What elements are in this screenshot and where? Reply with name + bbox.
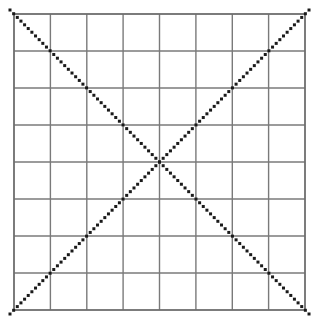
diagonal-dot — [122, 123, 125, 126]
figure-container — [0, 0, 311, 318]
diagonal-dot — [74, 75, 77, 78]
diagonal-dot — [132, 135, 135, 138]
diagonal-dot — [85, 86, 88, 89]
diagonal-dot — [165, 153, 168, 156]
diagonal-dot — [100, 101, 103, 104]
diagonal-dot — [27, 294, 30, 297]
diagonal-dot — [27, 27, 30, 30]
diagonal-dot — [125, 194, 128, 197]
diagonal-dot — [147, 149, 150, 152]
diagonal-dot — [300, 16, 303, 19]
diagonal-dot — [242, 246, 245, 249]
diagonal-dot — [169, 149, 172, 152]
diagonal-dot — [122, 198, 125, 201]
diagonal-dot — [271, 46, 274, 49]
diagonal-dot — [282, 287, 285, 290]
diagonal-dot — [275, 279, 278, 282]
diagonal-dot — [70, 249, 73, 252]
diagonal-dot — [176, 179, 179, 182]
diagonal-dot — [45, 275, 48, 278]
diagonal-dot — [103, 105, 106, 108]
diagonal-dot — [238, 242, 241, 245]
diagonal-dot — [198, 201, 201, 204]
diagonal-dot — [34, 34, 37, 37]
diagonal-dot — [176, 142, 179, 145]
diagonal-dot — [187, 131, 190, 134]
diagonal-dot — [9, 9, 12, 12]
diagonal-dot — [129, 131, 132, 134]
diagonal-dot — [103, 216, 106, 219]
diagonal-dot — [194, 123, 197, 126]
grid-diagram — [0, 0, 311, 318]
diagonal-dot — [70, 72, 73, 75]
diagonal-dot — [67, 253, 70, 256]
diagonal-dot — [89, 231, 92, 234]
diagonal-dot — [12, 12, 15, 15]
diagonal-dot — [147, 172, 150, 175]
diagonal-dot — [23, 298, 26, 301]
diagonal-dot — [300, 305, 303, 308]
diagonal-dot — [256, 60, 259, 63]
diagonal-dot — [205, 209, 208, 212]
diagonal-dot — [271, 275, 274, 278]
diagonal-dot — [49, 49, 52, 52]
diagonal-dot — [60, 60, 63, 63]
diagonal-dot — [238, 79, 241, 82]
diagonal-dot — [56, 264, 59, 267]
diagonal-dot — [85, 235, 88, 238]
diagonal-dot — [198, 120, 201, 123]
diagonal-dot — [63, 64, 66, 67]
diagonal-dot — [220, 97, 223, 100]
diagonal-dot — [107, 109, 110, 112]
diagonal-dot — [111, 112, 114, 115]
diagonal-dot — [78, 242, 81, 245]
diagonal-dot — [202, 205, 205, 208]
diagonal-dot — [96, 97, 99, 100]
diagonal-dot — [140, 179, 143, 182]
diagonal-dot — [235, 238, 238, 241]
diagonal-dot — [151, 168, 154, 171]
diagonal-dot — [264, 268, 267, 271]
diagonal-dot — [304, 12, 307, 15]
diagonal-dot — [184, 186, 187, 189]
diagonal-dot — [231, 235, 234, 238]
diagonal-dot — [293, 23, 296, 26]
diagonal-dot — [162, 157, 165, 160]
diagonal-dot — [275, 42, 278, 45]
diagonal-dot — [180, 183, 183, 186]
diagonal-dot — [16, 16, 19, 19]
diagonal-dot — [213, 105, 216, 108]
diagonal-dot — [89, 90, 92, 93]
diagonal-dot — [253, 64, 256, 67]
diagonal-dot — [173, 146, 176, 149]
diagonal-dot — [114, 205, 117, 208]
diagonal-dot — [34, 287, 37, 290]
diagonal-dot — [246, 72, 249, 75]
diagonal-dot — [235, 83, 238, 86]
diagonal-dot — [74, 246, 77, 249]
diagonal-dot — [16, 305, 19, 308]
diagonal-dot — [154, 157, 157, 160]
diagonal-dot — [187, 190, 190, 193]
diagonal-dot — [118, 201, 121, 204]
diagonal-dot — [286, 31, 289, 34]
diagonal-dot — [78, 79, 81, 82]
diagonal-dot — [213, 216, 216, 219]
diagonal-dot — [100, 220, 103, 223]
diagonal-dot — [308, 312, 311, 315]
diagonal-dot — [92, 227, 95, 230]
diagonal-dot — [286, 290, 289, 293]
diagonal-dot — [282, 34, 285, 37]
diagonal-dot — [140, 142, 143, 145]
diagonal-dot — [162, 164, 165, 167]
diagonal-dot — [260, 264, 263, 267]
diagonal-dot — [23, 23, 26, 26]
diagonal-dot — [304, 309, 307, 312]
diagonal-dot — [41, 42, 44, 45]
diagonal-dot — [49, 272, 52, 275]
diagonal-dot — [52, 268, 55, 271]
diagonal-dot — [132, 186, 135, 189]
diagonal-dot — [81, 83, 84, 86]
diagonal-dot — [308, 9, 311, 12]
diagonal-dot — [180, 138, 183, 141]
